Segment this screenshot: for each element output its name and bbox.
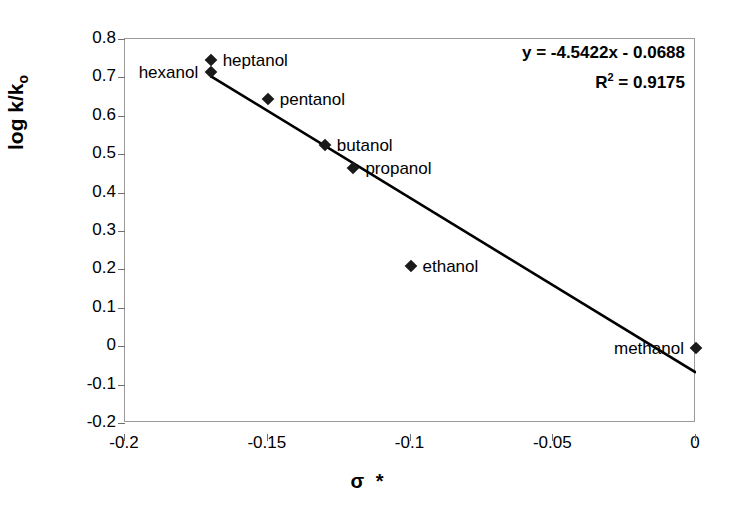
data-point-label: ethanol	[423, 258, 479, 275]
y-axis-tick-mark	[118, 269, 125, 270]
regression-annotation: y = -4.5422x - 0.0688 R2 = 0.9175	[455, 40, 685, 95]
chart-figure: 0.80.70.60.50.40.30.20.10-0.1-0.2 heptan…	[0, 0, 737, 520]
trendline-segment	[211, 76, 696, 373]
y-axis-tick-mark	[118, 77, 125, 78]
plot-area: heptanolhexanolpentanolbutanolpropanolet…	[124, 38, 695, 422]
x-axis-tick-labels: -0.2-0.15-0.1-0.050	[124, 434, 695, 458]
y-axis-tick-label: 0.3	[56, 221, 116, 238]
y-axis-tick-label: 0.2	[56, 259, 116, 276]
y-axis-tick-mark	[118, 154, 125, 155]
y-axis-tick-label: 0	[56, 336, 116, 353]
y-axis-tick-mark	[118, 423, 125, 424]
x-axis-tick-mark	[267, 434, 268, 441]
y-axis-title: log k/ko	[4, 75, 31, 150]
r-squared-prefix: R	[595, 73, 607, 92]
y-axis-tick-label: 0.5	[56, 144, 116, 161]
y-axis-tick-mark	[118, 193, 125, 194]
y-axis-tick-mark	[118, 39, 125, 40]
data-point-label: heptanol	[223, 52, 288, 69]
y-axis-tick-labels: 0.80.70.60.50.40.30.20.10-0.1-0.2	[48, 38, 116, 422]
y-axis-tick-mark	[118, 308, 125, 309]
y-axis-tick-mark	[118, 346, 125, 347]
x-axis-tick-mark	[552, 434, 553, 441]
y-axis-tick-label: 0.8	[56, 29, 116, 46]
y-axis-tick-label: -0.2	[56, 413, 116, 430]
data-point-label: hexanol	[139, 64, 199, 81]
y-axis-tick-mark	[118, 385, 125, 386]
trendline	[125, 39, 696, 423]
y-axis-tick-mark	[118, 116, 125, 117]
y-axis-title-text: log k/k	[4, 83, 27, 150]
y-axis-tick-label: 0.4	[56, 183, 116, 200]
data-point-label: pentanol	[280, 91, 345, 108]
regression-r-squared: R2 = 0.9175	[455, 65, 685, 95]
data-point-label: methanol	[614, 340, 684, 357]
y-axis-tick-label: 0.6	[56, 106, 116, 123]
y-axis-title-subscript: o	[15, 75, 31, 84]
regression-equation: y = -4.5422x - 0.0688	[455, 40, 685, 65]
x-axis-tick-mark	[124, 434, 125, 441]
y-axis-tick-label: -0.1	[56, 375, 116, 392]
x-axis-title: σ *	[0, 470, 737, 493]
r-squared-value: = 0.9175	[614, 73, 685, 92]
data-point-label: propanol	[365, 160, 431, 177]
data-point-label: butanol	[337, 137, 393, 154]
x-axis-tick-mark	[410, 434, 411, 441]
y-axis-tick-label: 0.7	[56, 67, 116, 84]
x-axis-tick-label: 0	[650, 434, 737, 451]
y-axis-tick-mark	[118, 231, 125, 232]
x-axis-tick-mark	[695, 434, 696, 441]
y-axis-tick-label: 0.1	[56, 298, 116, 315]
